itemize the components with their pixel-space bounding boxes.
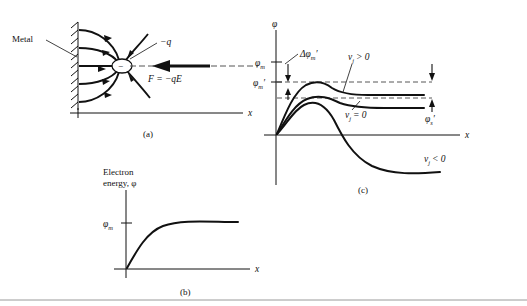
panel-c-y-label: φ [272,19,277,29]
panel-b-ylabel-line2: energy, φ [103,178,136,188]
panel-a: Metal − −q [12,22,258,139]
panel-a-caption: (a) [143,129,153,139]
delta-phi-dimension-arrow [285,64,291,82]
vj-zero-label: vj= 0 [345,110,367,122]
panel-b-phim-label: φm [103,219,113,231]
delta-phi-label: Δφm′ [299,49,319,61]
vj-positive-leader-line [343,64,352,92]
panel-c-phimprime-label: φm′ [253,78,266,90]
panel-a-x-label: x [247,108,253,118]
phis-prime-label: φs′ [425,114,436,126]
panel-b-x-label: x [254,264,260,274]
panel-c-phim-label: φm [255,58,265,70]
force-arrow [152,60,210,72]
phis-dimension-arrow [429,64,435,112]
delta-phi-leader-line [285,54,298,64]
vj-negative-label: vj< 0 [424,154,446,166]
physics-figure: Metal − −q [0,0,527,306]
panel-c-caption: (c) [358,185,368,195]
panel-c: x φ φm φm′ Δφm′ vj [253,19,470,195]
force-label: F = −qE [147,74,182,84]
panel-b: Electron energy, φ x φm (b) [103,167,260,297]
charge-label: −q [160,37,171,47]
panel-b-caption: (b) [180,287,191,297]
metal-wall [71,22,78,110]
panel-b-ylabel-line1: Electron [103,167,134,177]
panel-b-curve [127,221,238,268]
metal-label: Metal [12,34,33,44]
electron-sign: − [118,61,123,71]
panel-c-x-label: x [464,130,470,140]
vj-positive-label: vj> 0 [348,52,370,64]
